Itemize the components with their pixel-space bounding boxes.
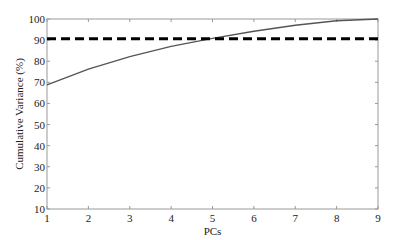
y-tick-label: 60 [34, 97, 46, 109]
axes [47, 19, 378, 209]
x-tick-label: 3 [127, 212, 133, 224]
x-tick-label: 9 [375, 212, 381, 224]
x-tick-label: 8 [334, 212, 340, 224]
x-tick-label: 4 [168, 212, 174, 224]
x-tick-label: 7 [293, 212, 299, 224]
series-group [47, 19, 378, 85]
y-tick-label: 30 [34, 161, 46, 173]
y-axis-title: Cumulative Variance (%) [13, 58, 26, 170]
y-tick-label: 70 [34, 76, 46, 88]
cumulative-variance-chart: 123456789102030405060708090100 PCs Cumul… [0, 0, 396, 240]
y-tick-label: 10 [34, 203, 46, 215]
y-tick-label: 100 [29, 13, 46, 25]
tick-labels: 123456789102030405060708090100 [29, 13, 382, 224]
y-tick-label: 80 [34, 55, 46, 67]
plot-frame [47, 19, 378, 209]
y-tick-label: 40 [34, 140, 46, 152]
y-tick-label: 20 [34, 182, 46, 194]
y-tick-label: 50 [34, 119, 46, 131]
x-axis-title: PCs [204, 225, 222, 237]
x-tick-label: 6 [251, 212, 257, 224]
x-tick-label: 2 [86, 212, 92, 224]
y-tick-label: 90 [34, 34, 46, 46]
x-tick-label: 5 [210, 212, 216, 224]
cumulative-variance-line [47, 19, 378, 85]
x-tick-label: 1 [44, 212, 50, 224]
